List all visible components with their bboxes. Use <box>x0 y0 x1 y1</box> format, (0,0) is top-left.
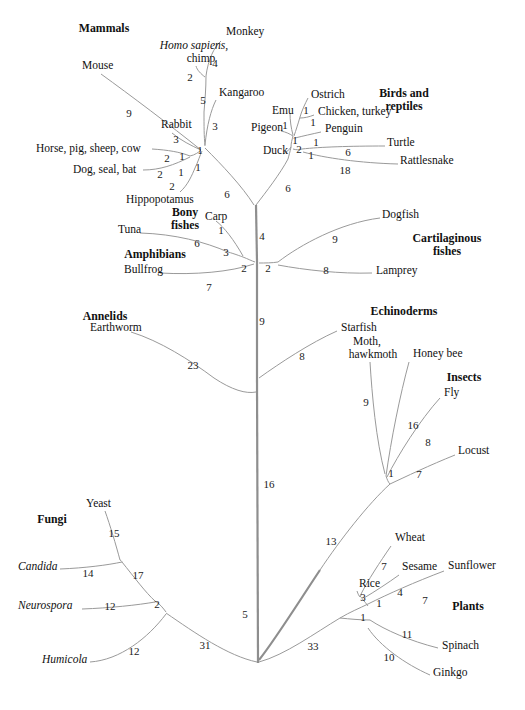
taxon-label-wheat: Wheat <box>395 531 425 544</box>
branch-length-d-honeybee: 16 <box>408 419 419 431</box>
branch-p-emu <box>290 113 293 135</box>
branch-p-bullfrog <box>160 264 254 274</box>
branch-length-d-fungi-stem: 31 <box>200 639 211 651</box>
branch-length-d-fungi-node: 2 <box>154 598 160 610</box>
branch-length-d-mammal-root: 1 <box>195 161 201 173</box>
clade-label-bony-fishes: Bonyfishes <box>171 206 199 231</box>
clade-label-fungi: Fungi <box>37 513 67 526</box>
taxon-label-turtle: Turtle <box>387 136 415 149</box>
branch-length-d-bird-node: 2 <box>296 143 302 155</box>
branch-length-d-eukaryote-root: 5 <box>242 608 248 620</box>
branch-p-dogfish <box>278 218 380 262</box>
branch-length-d-sunflower: 7 <box>422 594 428 606</box>
branch-length-d-gnathostome: 2 <box>241 262 247 274</box>
taxon-label-emu: Emu <box>272 104 294 117</box>
branch-length-d-insect-node: 1 <box>388 467 394 479</box>
branch-length-d-hippo: 2 <box>169 180 175 192</box>
branch-p-locust <box>390 455 455 484</box>
branch-p-insect-stem <box>320 484 390 570</box>
taxon-label-kangaroo: Kangaroo <box>219 86 264 99</box>
branch-p-earthworm <box>131 332 214 378</box>
branch-length-d-protostome-stem: 13 <box>326 535 337 547</box>
branch-length-d-mouse: 9 <box>126 107 132 119</box>
taxon-label-pigeon: Pigeon <box>251 121 283 134</box>
branch-length-d-primate-kangaroo-split: 5 <box>200 94 206 106</box>
branch-length-d-dogfish: 9 <box>332 233 338 245</box>
branch-p-earthworm-join <box>214 378 256 392</box>
branch-length-d-emu: 1 <box>282 119 288 131</box>
clade-label-mammals: Mammals <box>79 22 129 35</box>
branch-length-d-mammal-node: 1 <box>197 144 203 156</box>
branch-length-d-carp: 1 <box>218 224 224 236</box>
branch-length-d-metazoa-stem: 16 <box>264 478 275 490</box>
branch-p-primate-to-mammnode <box>204 112 205 146</box>
branch-length-d-archosaur: 1 <box>308 149 314 161</box>
branch-p-moth <box>370 362 385 474</box>
branch-length-d-ostrich: 1 <box>303 104 309 116</box>
branch-length-d-bony-fish: 3 <box>223 246 229 258</box>
branch-length-d-chicken: 1 <box>310 116 316 128</box>
branch-length-d-plant-stem: 33 <box>308 640 319 652</box>
taxon-label-tuna: Tuna <box>118 223 141 236</box>
branch-length-d-tetrapod: 4 <box>259 230 265 242</box>
branch-length-d-locust: 7 <box>416 468 422 480</box>
taxon-label-honey-bee: Honey bee <box>413 347 463 360</box>
branch-length-d-bird-stem: 6 <box>285 182 291 194</box>
branch-length-d-yeast: 15 <box>109 527 120 539</box>
taxon-label-fly: Fly <box>444 386 459 399</box>
branch-p-mouse <box>101 74 201 150</box>
taxon-label-horse-pig-sheep-cow: Horse, pig, sheep, cow <box>36 142 141 155</box>
taxon-label-dogfish: Dogfish <box>382 208 419 221</box>
branch-length-d-tuna: 6 <box>194 237 200 249</box>
taxon-label-hippopotamus: Hippopotamus <box>126 193 194 206</box>
taxon-label-duck: Duck <box>263 144 288 157</box>
taxon-label-candida: Candida <box>18 560 58 573</box>
branch-length-d-homo-chimp: 2 <box>187 71 193 83</box>
taxon-label-bullfrog: Bullfrog <box>124 263 163 276</box>
taxon-label-monkey: Monkey <box>226 25 264 38</box>
branch-p-neurospora <box>82 602 155 609</box>
branch-length-d-starfish: 8 <box>299 350 305 362</box>
branch-length-d-mammal-stem: 6 <box>224 188 230 200</box>
branch-length-d-wheat: 7 <box>381 560 387 572</box>
branch-p-trunk-top <box>256 205 257 262</box>
taxon-label-mouse: Mouse <box>82 59 113 72</box>
branch-p-fungi-stem <box>166 613 257 662</box>
taxon-label-homo-sapiens-chimp: Homo sapiens, <box>160 39 228 52</box>
branch-length-d-carnivore: 2 <box>157 168 163 180</box>
branch-length-d-sesame: 4 <box>397 586 403 598</box>
branch-length-d-spinach: 11 <box>402 628 413 640</box>
taxon-label-rabbit: Rabbit <box>161 118 192 131</box>
taxon-label-sunflower: Sunflower <box>448 559 496 572</box>
taxon-label-locust: Locust <box>458 444 489 457</box>
clade-label-cartilaginous-fishes: Cartilaginousfishes <box>413 232 482 257</box>
branch-length-d-kangaroo: 3 <box>212 120 218 132</box>
taxon-label-humicola: Humicola <box>42 653 87 666</box>
branch-length-d-rice: 3 <box>360 591 366 603</box>
clade-label-amphibians: Amphibians <box>124 248 186 261</box>
branch-length-d-turtle: 6 <box>345 146 351 158</box>
branch-length-d-bullfrog: 7 <box>206 281 212 293</box>
branch-length-d-vertebrate-stem: 9 <box>259 315 265 327</box>
branch-length-d-rattlesnake: 18 <box>340 164 351 176</box>
branch-length-d-lamprey: 8 <box>323 264 329 276</box>
branch-p-bird-stem <box>256 159 288 205</box>
branch-p-trunk-lower <box>257 380 258 663</box>
branch-length-d-ginkgo: 10 <box>384 651 395 663</box>
branch-p-starfish <box>259 331 337 378</box>
taxon-label-carp: Carp <box>205 210 227 223</box>
clade-label-plants: Plants <box>452 600 483 613</box>
branch-length-d-ungulate: 2 <box>164 152 170 164</box>
branch-p-plant-stem <box>259 618 340 662</box>
taxon-label-lamprey: Lamprey <box>376 264 418 277</box>
branch-p-homo-chimp <box>196 66 205 77</box>
branch-length-d-humicola: 12 <box>129 645 140 657</box>
branch-length-d-angiosperm: 1 <box>376 597 382 609</box>
taxon-label-hawkmoth: hawkmoth <box>349 348 398 361</box>
phylogenetic-tree-figure: MammalsBirds andreptilesBonyfishesCartil… <box>0 0 525 710</box>
branch-length-d-fly: 8 <box>425 436 431 448</box>
taxon-label-sesame: Sesame <box>402 560 437 573</box>
branch-p-honeybee <box>386 362 409 476</box>
taxon-label-rice: Rice <box>359 577 380 590</box>
taxon-label-ostrich: Ostrich <box>311 88 345 101</box>
